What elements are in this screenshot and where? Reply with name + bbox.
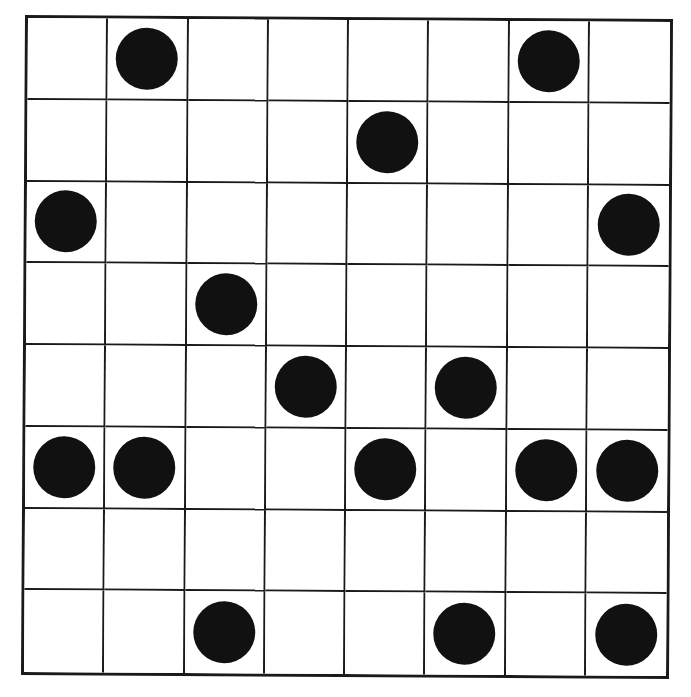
grid-cell-r6-c3 (265, 510, 346, 592)
grid-cell-r2-c4 (347, 184, 428, 266)
grid-cell-r6-c5 (426, 511, 507, 593)
grid-cell-r5-c4 (346, 429, 427, 511)
dot-grid-board (21, 15, 673, 679)
filled-dot-icon (597, 194, 659, 256)
grid-cell-r5-c5 (426, 429, 507, 511)
grid-cell-r0-c5 (429, 20, 510, 102)
filled-dot-icon (435, 356, 497, 418)
grid-cell-r3-c1 (106, 264, 187, 346)
grid-cell-r6-c1 (105, 509, 186, 591)
grid-cell-r1-c1 (107, 100, 188, 182)
grid-cell-r4-c7 (587, 348, 668, 430)
grid-cell-r4-c4 (347, 347, 428, 429)
grid-cell-r5-c3 (266, 428, 347, 510)
grid-cell-r6-c6 (506, 511, 587, 593)
grid-cell-r0-c2 (188, 19, 269, 101)
filled-dot-icon (356, 111, 418, 173)
grid-cell-r1-c5 (428, 102, 509, 184)
grid-cell-r2-c6 (508, 184, 589, 266)
grid-cell-r0-c4 (348, 20, 429, 102)
grid-cell-r3-c0 (26, 263, 107, 345)
grid-cell-r1-c2 (188, 101, 269, 183)
grid-cell-r0-c0 (28, 18, 109, 100)
filled-dot-icon (116, 27, 178, 89)
grid-cell-r7-c0 (24, 590, 105, 672)
filled-dot-icon (515, 439, 577, 501)
filled-dot-icon (113, 436, 175, 498)
filled-dot-icon (33, 436, 95, 498)
grid-cell-r3-c4 (347, 265, 428, 347)
filled-dot-icon (35, 190, 97, 252)
grid-cell-r7-c2 (185, 591, 266, 673)
grid-cell-r1-c3 (268, 101, 349, 183)
grid-cell-r2-c0 (27, 182, 108, 264)
filled-dot-icon (596, 439, 658, 501)
grid-cell-r2-c2 (187, 183, 268, 265)
grid-cell-r0-c1 (108, 19, 189, 101)
filled-dot-icon (274, 355, 336, 417)
grid-cell-r1-c0 (27, 100, 108, 182)
grid-cell-r2-c5 (428, 184, 509, 266)
grid-cell-r7-c7 (586, 594, 667, 676)
grid-cell-r2-c1 (107, 182, 188, 264)
grid-cell-r0-c7 (589, 21, 670, 103)
grid-cell-r5-c1 (105, 427, 186, 509)
grid-cell-r5-c0 (25, 427, 106, 509)
grid-cell-r1-c6 (508, 103, 589, 185)
grid-cell-r7-c5 (425, 593, 506, 675)
grid-cell-r5-c2 (186, 428, 267, 510)
grid-cell-r6-c0 (25, 509, 106, 591)
grid-cell-r3-c5 (427, 266, 508, 348)
grid-cell-r5-c6 (506, 430, 587, 512)
grid-cell-r1-c7 (589, 103, 670, 185)
grid-cell-r4-c5 (427, 347, 508, 429)
grid-cell-r2-c7 (588, 185, 669, 267)
grid-cell-r3-c3 (267, 265, 348, 347)
grid-cell-r2-c3 (267, 183, 348, 265)
grid-cell-r3-c7 (588, 267, 669, 349)
filled-dot-icon (195, 273, 257, 335)
filled-dot-icon (193, 601, 255, 663)
grid-cell-r3-c6 (507, 266, 588, 348)
grid-cell-r6-c2 (185, 510, 266, 592)
grid-cell-r7-c1 (104, 591, 185, 673)
grid-cell-r0-c6 (509, 21, 590, 103)
filled-dot-icon (595, 604, 657, 666)
grid-cell-r4-c3 (266, 347, 347, 429)
grid-cell-r3-c2 (187, 264, 268, 346)
grid-cell-r7-c3 (265, 592, 346, 674)
grid-cell-r6-c4 (346, 510, 427, 592)
grid-cell-r7-c4 (345, 592, 426, 674)
filled-dot-icon (354, 438, 416, 500)
grid-cell-r0-c3 (268, 20, 349, 102)
grid-cell-r1-c4 (348, 102, 429, 184)
grid-cell-r5-c7 (587, 430, 668, 512)
grid-cell-r4-c2 (186, 346, 267, 428)
grid-cell-r4-c1 (106, 346, 187, 428)
grid-cell-r7-c6 (505, 593, 586, 675)
filled-dot-icon (433, 603, 495, 665)
filled-dot-icon (517, 30, 579, 92)
grid-cell-r6-c7 (586, 512, 667, 594)
grid-cell-r4-c6 (507, 348, 588, 430)
grid-cell-r4-c0 (26, 345, 107, 427)
